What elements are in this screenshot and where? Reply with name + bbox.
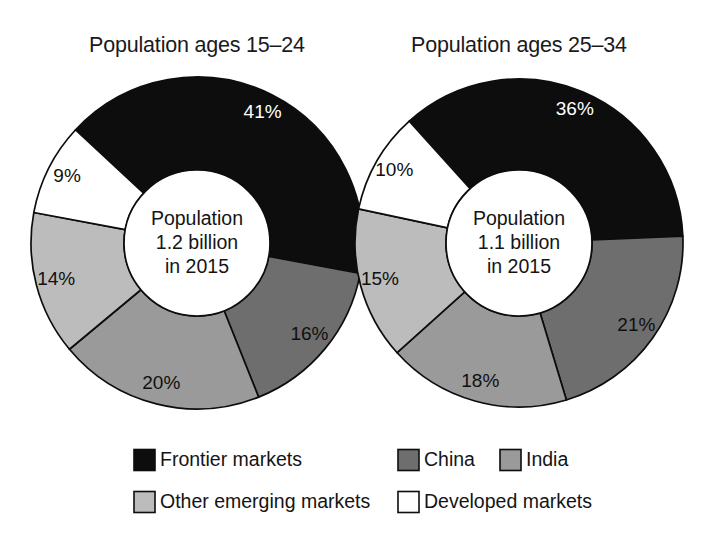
slice-label: 18% [461, 370, 499, 391]
slice-label: 10% [375, 159, 413, 180]
slice-label: 41% [244, 101, 282, 122]
legend-swatch-india [500, 450, 521, 471]
legend-swatch-other [134, 492, 155, 513]
donut-center-left: Population1.2 billionin 2015 [124, 170, 270, 316]
donut-center-text-line: in 2015 [165, 255, 229, 277]
slice-label: 21% [617, 314, 655, 335]
donut-center-text-line: in 2015 [487, 255, 551, 277]
slice-label: 9% [53, 165, 81, 186]
slice-label: 36% [556, 98, 594, 119]
legend-swatch-developed [398, 492, 419, 513]
chart-title-left: Population ages 15–24 [89, 33, 305, 57]
donut-chart-figure: Population ages 15–24 41%16%20%14%9% Pop… [0, 0, 713, 541]
legend-label-frontier: Frontier markets [160, 448, 302, 470]
donut-center-text-line: 1.1 billion [478, 231, 560, 253]
legend-label-china: China [424, 448, 475, 470]
donut-center-text-line: 1.2 billion [156, 231, 238, 253]
slice-label: 16% [290, 323, 328, 344]
slice-label: 20% [142, 372, 180, 393]
legend-swatch-china [398, 450, 419, 471]
legend-label-other: Other emerging markets [160, 490, 370, 512]
donut-center-right: Population1.1 billionin 2015 [446, 170, 592, 316]
legend-label-india: India [526, 448, 568, 470]
legend-swatch-frontier [134, 450, 155, 471]
donut-center-text-line: Population [151, 207, 243, 229]
chart-title-right: Population ages 25–34 [411, 33, 627, 57]
legend-label-developed: Developed markets [424, 490, 592, 512]
slice-label: 14% [37, 268, 75, 289]
donut-center-text-line: Population [473, 207, 565, 229]
slice-label: 15% [361, 268, 399, 289]
